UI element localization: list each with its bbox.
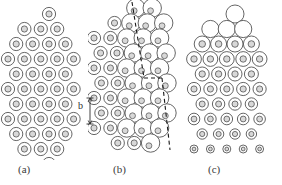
burgers-vector-dimension-arrow <box>0 0 282 185</box>
crystal-lattice-figure: b (a) (b) (c) <box>0 0 282 185</box>
burgers-vector-label: b <box>78 100 83 111</box>
panel-label-a: (a) <box>18 163 30 175</box>
panel-label-c: (c) <box>208 163 220 175</box>
panel-label-b: (b) <box>113 163 126 175</box>
